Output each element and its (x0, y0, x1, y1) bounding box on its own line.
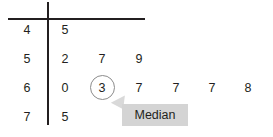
header-rule (8, 18, 145, 20)
leaf-value: 7 (129, 81, 149, 95)
leaf-value: 7 (92, 52, 112, 66)
leaf-value: 9 (129, 52, 149, 66)
leaf-value: 5 (55, 23, 75, 37)
median-callout: Median (122, 104, 188, 126)
median-circle-marker (90, 75, 115, 100)
stem-value: 5 (17, 52, 37, 66)
stem-value: 7 (17, 110, 37, 124)
median-callout-label: Median (135, 108, 176, 122)
stem-and-leaf-plot: 4 5 5 2 7 9 6 0 3 7 7 7 8 7 5 Median (0, 0, 273, 137)
stem-leaf-divider-line (47, 2, 49, 125)
leaf-value: 7 (202, 81, 222, 95)
leaf-value: 7 (166, 81, 186, 95)
leaf-value: 5 (55, 110, 75, 124)
leaf-value: 0 (55, 81, 75, 95)
leaf-value: 8 (238, 81, 258, 95)
leaf-value: 2 (55, 52, 75, 66)
stem-value: 6 (17, 81, 37, 95)
stem-value: 4 (17, 23, 37, 37)
